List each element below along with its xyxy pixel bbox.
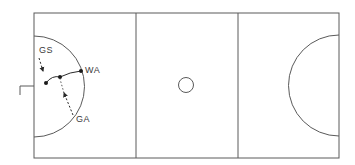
wa-label: WA xyxy=(85,65,100,75)
court-outline xyxy=(34,13,339,158)
gs-movement-arrow-icon xyxy=(39,58,43,71)
left-goal-post xyxy=(20,86,34,95)
netball-court-diagram: GS WA GA xyxy=(0,0,355,165)
wa-position-dot xyxy=(79,69,83,73)
ga-label: GA xyxy=(76,114,90,124)
gs-label: GS xyxy=(39,45,53,55)
ga-to-mid-dashed-line xyxy=(60,79,64,93)
ga-movement-arrow-icon xyxy=(64,93,73,115)
right-goal-circle xyxy=(289,35,340,136)
mid-position-dot xyxy=(58,75,62,79)
gs-position-dot xyxy=(44,81,48,85)
pass-line xyxy=(46,71,81,83)
centre-circle xyxy=(179,78,194,93)
